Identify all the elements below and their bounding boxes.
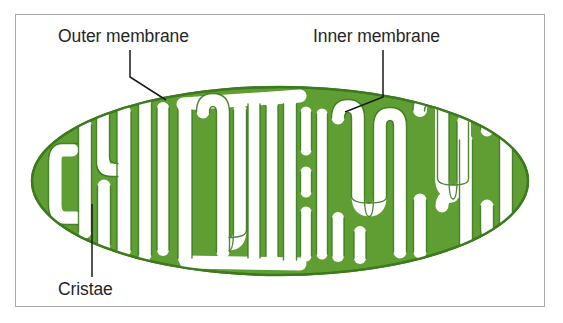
outer-membrane-leader-line bbox=[130, 50, 166, 100]
cristae-label: Cristae bbox=[58, 279, 113, 299]
outer-membrane-label: Outer membrane bbox=[58, 26, 189, 46]
crista-bottom-connector bbox=[186, 262, 300, 264]
inner-membrane-label: Inner membrane bbox=[313, 26, 440, 46]
mitochondrion-diagram: Outer membrane Inner membrane Cristae bbox=[0, 0, 563, 323]
figure-canvas: Outer membrane Inner membrane Cristae bbox=[0, 0, 563, 323]
